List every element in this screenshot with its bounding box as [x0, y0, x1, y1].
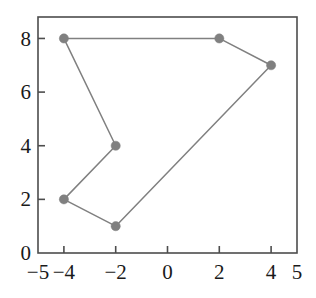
- x-tick-label: 4: [266, 262, 277, 283]
- data-point-marker: [111, 141, 120, 150]
- data-point-marker: [111, 222, 120, 231]
- axes-frame: [38, 17, 297, 253]
- axes-border: [38, 17, 297, 253]
- x-tick-label: −5: [27, 262, 49, 283]
- y-axis-ticks: [38, 38, 45, 199]
- data-series-markers: [59, 34, 275, 231]
- data-point-marker: [59, 34, 68, 43]
- x-axis-ticks: [64, 246, 271, 253]
- data-point-marker: [215, 34, 224, 43]
- y-tick-label: 4: [21, 135, 32, 156]
- y-tick-label: 0: [21, 243, 32, 264]
- series-polyline: [64, 38, 271, 226]
- y-tick-label: 6: [21, 82, 32, 103]
- chart-figure: −4−2024−55 24680: [0, 0, 316, 298]
- x-tick-label: 0: [162, 262, 173, 283]
- y-tick-label: 2: [21, 189, 32, 210]
- x-tick-label: −4: [53, 262, 75, 283]
- data-series-line: [64, 38, 271, 226]
- y-tick-label: 8: [21, 28, 32, 49]
- plot-area: [0, 0, 316, 298]
- x-tick-label: 5: [292, 262, 303, 283]
- data-point-marker: [59, 195, 68, 204]
- x-tick-label: 2: [214, 262, 225, 283]
- x-tick-label: −2: [105, 262, 127, 283]
- data-point-marker: [267, 61, 276, 70]
